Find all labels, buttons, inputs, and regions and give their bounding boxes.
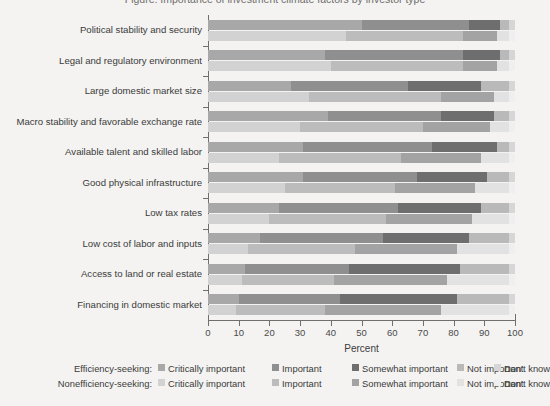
bar-segment bbox=[497, 61, 509, 71]
legend-swatch bbox=[272, 364, 279, 371]
legend-item[interactable]: Don't know bbox=[494, 377, 550, 389]
legend-swatch bbox=[494, 364, 501, 371]
bar-segment bbox=[490, 122, 508, 132]
bar-segment bbox=[494, 92, 509, 102]
bar-segment bbox=[441, 92, 493, 102]
category-label-group: Political stability and securityLegal an… bbox=[0, 0, 202, 320]
legend-item[interactable]: Somewhat important bbox=[352, 362, 448, 374]
bar-segment bbox=[509, 275, 515, 285]
bar-efficiency-6 bbox=[208, 203, 515, 213]
category-label: Large domestic market size bbox=[2, 86, 202, 96]
bar-segment bbox=[509, 61, 515, 71]
x-tick bbox=[515, 321, 516, 326]
legend-item-label: Important bbox=[282, 363, 322, 374]
bar-segment bbox=[509, 294, 515, 304]
bar-segment bbox=[260, 233, 383, 243]
bar-segment bbox=[208, 264, 245, 274]
bar-segment bbox=[408, 81, 482, 91]
bar-segment bbox=[279, 203, 399, 213]
bar-segment bbox=[469, 20, 500, 30]
bar-segment bbox=[398, 203, 481, 213]
legend-swatch bbox=[457, 379, 464, 386]
legend-item[interactable]: Critically important bbox=[158, 362, 245, 374]
bar-segment bbox=[509, 122, 515, 132]
bar-segment bbox=[208, 92, 309, 102]
bar-segment bbox=[208, 183, 285, 193]
x-tick-label: 20 bbox=[264, 327, 275, 338]
bar-segment bbox=[208, 244, 248, 254]
legend-item[interactable]: Important bbox=[272, 377, 322, 389]
bar-segment bbox=[285, 183, 396, 193]
x-tick-label: 0 bbox=[205, 327, 210, 338]
bar-segment bbox=[208, 50, 325, 60]
x-tick bbox=[239, 321, 240, 326]
bar-segment bbox=[432, 142, 496, 152]
chart-root: Figure: Importance of investment climate… bbox=[0, 0, 550, 406]
category-label: Legal and regulatory environment bbox=[2, 56, 202, 66]
bar-efficiency-7 bbox=[208, 233, 515, 243]
bar-segment bbox=[481, 153, 509, 163]
bar-segment bbox=[509, 20, 515, 30]
bar-segment bbox=[500, 20, 509, 30]
legend-item[interactable]: Important bbox=[272, 362, 322, 374]
bar-segment bbox=[487, 172, 508, 182]
bar-segment bbox=[481, 203, 509, 213]
x-tick-label: 10 bbox=[233, 327, 244, 338]
legend-item-label: Critically important bbox=[168, 363, 245, 374]
bar-segment bbox=[441, 111, 493, 121]
bar-segment bbox=[497, 31, 509, 41]
x-tick bbox=[269, 321, 270, 326]
bar-segment bbox=[248, 244, 355, 254]
category-label: Financing in domestic market bbox=[2, 300, 202, 310]
bar-nonefficiency-1 bbox=[208, 61, 515, 71]
category-label: Low cost of labor and inputs bbox=[2, 239, 202, 249]
bar-segment bbox=[457, 294, 509, 304]
bar-segment bbox=[245, 264, 349, 274]
category-label: Macro stability and favorable exchange r… bbox=[2, 117, 202, 127]
legend-row-label-nonefficiency: Nonefficiency-seeking: bbox=[0, 378, 152, 389]
x-tick-label: 80 bbox=[448, 327, 459, 338]
bar-segment bbox=[236, 305, 325, 315]
bar-segment bbox=[349, 264, 460, 274]
category-label: Political stability and security bbox=[2, 25, 202, 35]
bar-segment bbox=[469, 233, 509, 243]
bar-segment bbox=[208, 214, 269, 224]
bar-segment bbox=[309, 92, 441, 102]
bar-segment bbox=[494, 111, 509, 121]
bar-segment bbox=[460, 264, 509, 274]
bar-segment bbox=[509, 81, 515, 91]
x-tick-label: 100 bbox=[507, 327, 523, 338]
x-tick bbox=[454, 321, 455, 326]
x-tick-label: 70 bbox=[418, 327, 429, 338]
legend-row-label-efficiency: Efficiency-seeking: bbox=[0, 363, 152, 374]
bar-segment bbox=[457, 244, 509, 254]
bar-segment bbox=[208, 275, 242, 285]
bar-segment bbox=[208, 142, 303, 152]
bar-segment bbox=[208, 172, 303, 182]
bar-segment bbox=[481, 81, 509, 91]
bar-segment bbox=[472, 214, 509, 224]
bar-segment bbox=[500, 50, 509, 60]
legend-item-label: Somewhat important bbox=[362, 363, 448, 374]
bar-segment bbox=[303, 172, 417, 182]
legend-swatch bbox=[272, 379, 279, 386]
bar-segment bbox=[269, 214, 386, 224]
x-axis-right-cap bbox=[515, 314, 516, 321]
bar-segment bbox=[340, 294, 457, 304]
bar-nonefficiency-5 bbox=[208, 183, 515, 193]
legend-item[interactable]: Critically important bbox=[158, 377, 245, 389]
bar-segment bbox=[208, 31, 346, 41]
category-label: Low tax rates bbox=[2, 208, 202, 218]
legend-item[interactable]: Somewhat important bbox=[352, 377, 448, 389]
legend-item[interactable]: Don't know bbox=[494, 362, 550, 374]
bar-segment bbox=[395, 183, 475, 193]
bar-segment bbox=[423, 122, 491, 132]
bar-segment bbox=[509, 111, 515, 121]
bar-segment bbox=[208, 233, 260, 243]
bar-segment bbox=[208, 61, 331, 71]
bar-segment bbox=[325, 305, 442, 315]
legend-item-label: Important bbox=[282, 378, 322, 389]
bar-nonefficiency-4 bbox=[208, 153, 515, 163]
legend-row-efficiency: Efficiency-seeking:Critically importantI… bbox=[0, 362, 550, 377]
bar-segment bbox=[401, 153, 481, 163]
